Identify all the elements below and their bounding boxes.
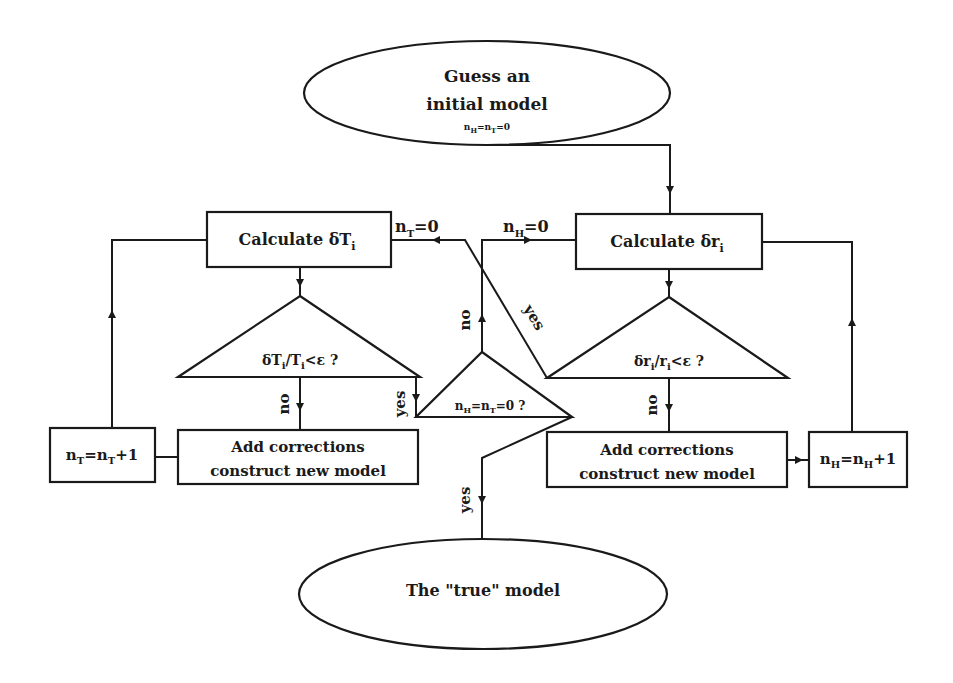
- no-r-label: no: [643, 395, 661, 416]
- reset-t-label: nT=0: [395, 217, 439, 239]
- arrow-up-icon: [478, 314, 486, 322]
- arrow-up-icon: [848, 318, 856, 326]
- test-t-decision: δTi/Ti<ε ?: [178, 296, 420, 377]
- correct-r-line2: construct new model: [579, 465, 755, 483]
- start-node: Guess an initial model nH=nT=0: [304, 41, 670, 145]
- inc-t-node: nT=nT+1: [50, 428, 155, 482]
- correct-t-line2: construct new model: [210, 462, 386, 480]
- arrow-down-icon: [296, 279, 304, 287]
- test-both-decision: nH=nT=0 ?: [416, 352, 572, 417]
- end-node: The "true" model: [299, 539, 667, 649]
- arrow-down-icon: [665, 281, 673, 289]
- yes-center-diag-label: yes: [519, 300, 549, 333]
- correct-t-node: Add corrections construct new model: [178, 430, 418, 484]
- flowchart-canvas: Guess an initial model nH=nT=0 Calculate…: [0, 0, 953, 683]
- inc-t-label: nT=nT+1: [66, 446, 138, 466]
- yes-t-label: yes: [391, 391, 409, 419]
- edge-start-to-calc-r: [487, 145, 670, 214]
- arrow-down-icon: [478, 496, 486, 504]
- inc-h-node: nH=nH+1: [809, 432, 907, 487]
- yes-end-label: yes: [456, 487, 474, 515]
- reset-h-label: nH=0: [503, 217, 549, 239]
- arrow-right-icon: [795, 456, 803, 464]
- arrow-right-icon: [524, 236, 532, 244]
- correct-t-line1: Add corrections: [230, 438, 364, 456]
- arrow-down-icon: [412, 394, 420, 402]
- no-center-label: no: [456, 310, 474, 331]
- arrow-down-icon: [296, 403, 304, 411]
- start-line2: initial model: [426, 94, 548, 114]
- arrow-down-icon: [666, 186, 674, 194]
- edge-center-no: [482, 240, 576, 352]
- edge-inc-h-to-calc-r: [762, 242, 852, 432]
- arrow-left-icon: [432, 236, 440, 244]
- start-line1: Guess an: [444, 66, 530, 86]
- calc-t-node: Calculate δTi: [207, 212, 391, 267]
- end-label: The "true" model: [406, 581, 560, 600]
- test-r-decision: δri/ri<ε ?: [547, 297, 788, 378]
- arrow-up-icon: [108, 310, 116, 318]
- edge-inc-t-to-calc-t: [112, 240, 207, 428]
- correct-r-node: Add corrections construct new model: [547, 432, 787, 487]
- calc-r-node: Calculate δri: [576, 214, 762, 269]
- arrow-down-icon: [665, 404, 673, 412]
- correct-r-line1: Add corrections: [599, 441, 733, 459]
- no-t-label: no: [275, 394, 293, 415]
